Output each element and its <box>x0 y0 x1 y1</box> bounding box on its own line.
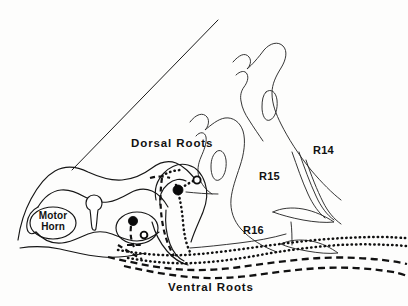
neuron-soma-filled-upper <box>173 185 183 195</box>
label-r15: R15 <box>259 170 280 182</box>
diagram-canvas <box>0 0 408 306</box>
label-dorsal-roots: Dorsal Roots <box>131 137 213 149</box>
root-lobe-r14-outline <box>233 43 341 200</box>
root-lobe-r15-leaflet <box>211 150 226 180</box>
central-canal <box>86 195 102 230</box>
label-r16: R16 <box>243 224 264 236</box>
label-motor-horn: Motor Horn <box>33 211 73 232</box>
spinal-cord-diagram: Dorsal Roots Ventral Roots R14 R15 R16 M… <box>0 0 408 306</box>
label-motor-horn-line1: Motor <box>33 211 73 222</box>
root-lobe-r14-leaflet <box>262 90 277 120</box>
neuron-soma-open-upper <box>193 176 200 183</box>
lower-neuron-ellipse <box>116 212 158 244</box>
label-ventral-roots: Ventral Roots <box>168 281 254 293</box>
grey-matter-upper-margin <box>38 189 168 207</box>
label-motor-horn-line2: Horn <box>33 222 73 233</box>
root-lobe-r14-inner-edge <box>236 71 263 141</box>
tract-dotted-upper-arc <box>162 170 182 176</box>
r16-field-contour <box>190 234 286 248</box>
neuron-soma-filled-lower <box>128 216 137 225</box>
root-stalk-bridge <box>186 192 218 194</box>
root-lobe-r15-outline <box>190 114 277 252</box>
label-r14: R14 <box>313 144 334 156</box>
neuron-soma-open-lower <box>141 232 148 239</box>
root-spur-upper <box>273 208 334 222</box>
tract-dashed-main <box>108 257 407 270</box>
